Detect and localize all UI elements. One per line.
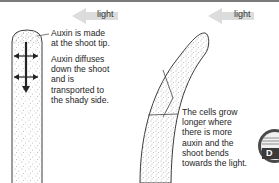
straight-shoot xyxy=(12,30,49,183)
caption-auxin-diffuses: Auxin diffuses down the shoot and is tra… xyxy=(51,54,109,105)
caption-cells-grow: The cells grow longer where there is mor… xyxy=(182,107,247,168)
badge-letter: D xyxy=(266,148,273,158)
light-label-right: light xyxy=(234,9,251,19)
light-label-left: light xyxy=(97,9,114,19)
caption-auxin-made: Auxin is made at the shoot tip. xyxy=(51,28,110,48)
